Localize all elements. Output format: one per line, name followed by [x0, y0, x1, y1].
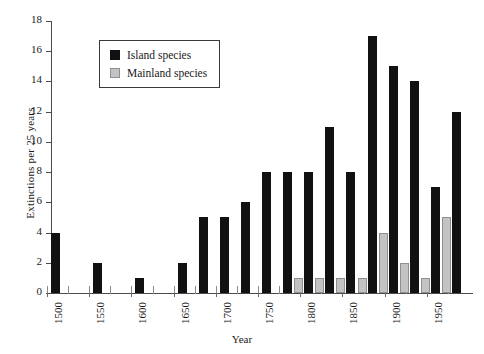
legend-label-island: Island species [127, 49, 191, 61]
x-tick-minor [110, 286, 111, 294]
chart-figure: Extinctions per 25 years 024681012141618… [0, 0, 484, 354]
x-tick [47, 293, 48, 297]
x-tick [89, 293, 90, 297]
bar-island [51, 233, 60, 293]
bar-island [389, 66, 398, 293]
x-tick [258, 293, 259, 297]
x-tick [385, 293, 386, 297]
bar-island [262, 172, 271, 293]
bar-mainland [358, 278, 367, 293]
y-tick-label: 8 [37, 164, 43, 176]
bar-mainland [421, 278, 430, 293]
y-tick: 8 [46, 172, 51, 173]
bar-island [452, 112, 461, 293]
y-tick: 6 [46, 202, 51, 203]
x-tick-label: 1650 [179, 302, 191, 324]
legend-swatch-island-icon [110, 50, 120, 60]
x-tick-label: 1750 [263, 302, 275, 324]
y-tick-label: 16 [31, 43, 42, 55]
bar-island [220, 217, 229, 293]
bar-island [178, 263, 187, 293]
y-tick-label: 12 [31, 104, 42, 116]
x-tick-minor [279, 286, 280, 294]
x-tick-label: 1800 [305, 302, 317, 324]
y-tick: 14 [46, 81, 51, 82]
y-axis-title: Extinctions per 25 years [24, 63, 36, 263]
y-tick: 12 [46, 112, 51, 113]
x-tick-minor [153, 286, 154, 294]
bar-mainland [442, 217, 451, 293]
x-tick-minor [237, 286, 238, 294]
x-tick-label: 1600 [136, 302, 148, 324]
bar-island [346, 172, 355, 293]
legend-swatch-mainland-icon [110, 68, 120, 78]
x-tick [427, 293, 428, 297]
x-tick-label: 1550 [94, 302, 106, 324]
bar-mainland [336, 278, 345, 293]
bar-island [241, 202, 250, 293]
x-axis-title: Year [0, 333, 484, 345]
x-tick [174, 293, 175, 297]
bar-mainland [315, 278, 324, 293]
y-tick: 18 [46, 21, 51, 22]
y-tick-label: 14 [31, 73, 42, 85]
bar-island [410, 81, 419, 293]
legend-label-mainland: Mainland species [127, 67, 207, 79]
x-tick-label: 1950 [432, 302, 444, 324]
bar-mainland [400, 263, 409, 293]
legend-item-island: Island species [110, 49, 191, 61]
x-tick-label: 1900 [390, 302, 402, 324]
y-tick-label: 2 [37, 255, 43, 267]
legend: Island species Mainland species [99, 40, 220, 88]
x-tick-label: 1500 [52, 302, 64, 324]
x-tick-label: 1850 [347, 302, 359, 324]
legend-item-mainland: Mainland species [110, 67, 207, 79]
y-tick-label: 18 [31, 13, 42, 25]
x-tick [131, 293, 132, 297]
x-tick-minor [195, 286, 196, 294]
bar-island [283, 172, 292, 293]
x-axis-line [51, 293, 473, 294]
x-tick [342, 293, 343, 297]
y-tick-label: 6 [37, 194, 43, 206]
y-tick-label: 0 [37, 285, 43, 297]
y-tick: 16 [46, 51, 51, 52]
x-tick-minor [68, 286, 69, 294]
bar-island [93, 263, 102, 293]
y-tick-label: 4 [37, 225, 43, 237]
bar-mainland [379, 233, 388, 293]
y-tick-label: 10 [31, 134, 42, 146]
y-tick: 10 [46, 142, 51, 143]
bar-island [304, 172, 313, 293]
bar-mainland [294, 278, 303, 293]
x-tick-label: 1700 [221, 302, 233, 324]
bar-island [368, 36, 377, 293]
x-tick [300, 293, 301, 297]
bar-island [325, 127, 334, 293]
bar-island [431, 187, 440, 293]
bar-island [135, 278, 144, 293]
x-tick [216, 293, 217, 297]
bar-island [199, 217, 208, 293]
